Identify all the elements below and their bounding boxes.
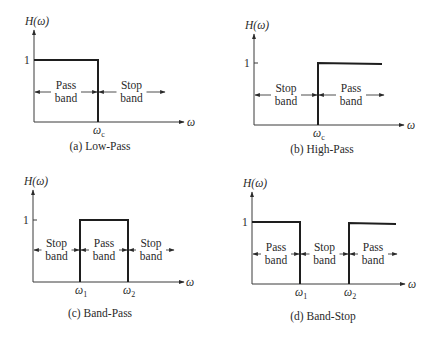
- filter-types-figure: H(ω) 1 ω (a) Low-Pass ωcPassbandStopband…: [0, 0, 434, 337]
- band-label: band: [275, 95, 298, 107]
- band-label: Pass: [56, 79, 77, 91]
- x-axis-label: ω: [187, 116, 195, 128]
- band-label: Pass: [341, 82, 362, 94]
- y-axis-label: H(ω): [23, 175, 48, 188]
- band-label: band: [340, 95, 363, 107]
- y-axis-label: H(ω): [242, 177, 267, 190]
- band-label: Stop: [275, 82, 296, 95]
- panel-band-stop: H(ω) 1 ω (d) Band-Stop ω1ω2PassbandStopb…: [242, 177, 416, 323]
- band-label: Pass: [363, 241, 384, 253]
- panel-low-pass: H(ω) 1 ω (a) Low-Pass ωcPassbandStopband: [24, 15, 195, 153]
- panel-high-pass: H(ω) 1 ω (b) High-Pass ωcStopbandPassban…: [244, 19, 415, 156]
- cutoff-frequency-label: ω1: [295, 286, 307, 301]
- band-label: Stop: [46, 237, 67, 250]
- band-label: Pass: [94, 237, 115, 249]
- band-label: band: [120, 92, 143, 104]
- band-label: Stop: [121, 79, 142, 92]
- band-label: Stop: [314, 241, 335, 254]
- unit-level-label: 1: [23, 214, 29, 226]
- panel-caption: (b) High-Pass: [290, 143, 354, 156]
- x-axis-label: ω: [407, 119, 415, 131]
- cutoff-frequency-label: ω2: [344, 286, 356, 301]
- frequency-response-line: [318, 63, 382, 125]
- frequency-response-line: [252, 222, 300, 284]
- panel-caption: (a) Low-Pass: [70, 140, 132, 153]
- band-label: band: [93, 250, 116, 262]
- cutoff-frequency-label: ωc: [313, 127, 325, 142]
- band-label: band: [362, 254, 385, 266]
- band-label: band: [140, 250, 163, 262]
- x-axis-label: ω: [186, 276, 194, 288]
- cutoff-frequency-label: ω2: [123, 284, 135, 299]
- band-label: band: [265, 254, 288, 266]
- y-axis-label: H(ω): [244, 19, 269, 32]
- frequency-response-line: [34, 60, 98, 122]
- band-label: Pass: [266, 241, 287, 253]
- cutoff-frequency-label: ω1: [75, 284, 87, 299]
- unit-level-label: 1: [244, 57, 250, 69]
- panel-band-pass: H(ω) 1 ω (c) Band-Pass ω1ω2StopbandPassb…: [23, 175, 194, 320]
- band-label: band: [45, 250, 68, 262]
- band-label: Stop: [140, 237, 161, 250]
- band-label: band: [313, 254, 336, 266]
- cutoff-frequency-label: ωc: [93, 124, 105, 139]
- y-axis-label: H(ω): [24, 15, 49, 28]
- band-label: band: [55, 92, 78, 104]
- x-axis-label: ω: [408, 278, 416, 290]
- panel-caption: (c) Band-Pass: [68, 307, 133, 320]
- panel-caption: (d) Band-Stop: [290, 310, 356, 323]
- unit-level-label: 1: [24, 54, 30, 66]
- unit-level-label: 1: [242, 216, 248, 228]
